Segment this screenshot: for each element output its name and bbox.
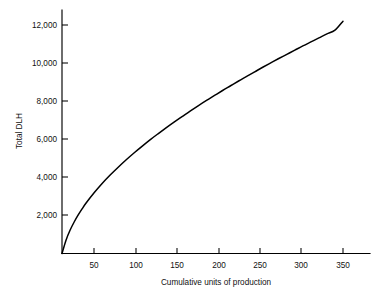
x-tick-label-350: 350 (336, 261, 350, 270)
learning-curve-chart: 12,000 10,000 8,000 6,000 4,000 2,000 50… (0, 0, 385, 301)
y-tick-label-6000: 6,000 (37, 135, 58, 144)
y-axis-tick-labels: 12,000 10,000 8,000 6,000 4,000 2,000 (32, 21, 57, 220)
page-caption-fragment (0, 292, 385, 301)
chart-canvas: 12,000 10,000 8,000 6,000 4,000 2,000 50… (0, 0, 385, 301)
y-tick-label-8000: 8,000 (37, 97, 58, 106)
x-axis-tick-labels: 50 100 150 200 250 300 350 (89, 261, 350, 270)
data-series-line (62, 21, 343, 253)
x-tick-label-250: 250 (253, 261, 267, 270)
y-tick-label-10000: 10,000 (32, 59, 57, 68)
y-tick-label-2000: 2,000 (37, 211, 58, 220)
x-axis-ticks (94, 248, 343, 254)
x-tick-label-50: 50 (89, 261, 99, 270)
y-axis-ticks (62, 25, 68, 215)
y-tick-label-4000: 4,000 (37, 173, 58, 182)
x-tick-label-200: 200 (212, 261, 226, 270)
x-tick-label-150: 150 (170, 261, 184, 270)
y-tick-label-12000: 12,000 (32, 21, 57, 30)
x-tick-label-100: 100 (129, 261, 143, 270)
x-axis-title: Cumulative units of production (161, 278, 272, 287)
y-axis-title: Total DLH (15, 113, 24, 149)
x-tick-label-300: 300 (294, 261, 308, 270)
